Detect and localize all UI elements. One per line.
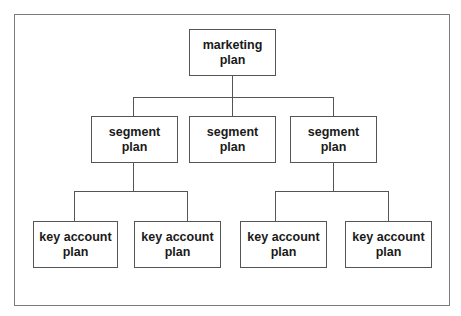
connector (133, 162, 134, 191)
key-account-plan-node: key account plan (134, 221, 221, 268)
node-label-line2: plan (122, 140, 148, 155)
connector (388, 191, 389, 221)
segment-plan-node: segment plan (91, 116, 178, 163)
node-label-line1: key account (352, 230, 424, 245)
connector (333, 97, 334, 116)
node-label-line2: plan (376, 245, 402, 260)
connector (333, 162, 334, 191)
connector (133, 97, 334, 98)
connector (133, 97, 134, 116)
key-account-plan-node: key account plan (240, 221, 327, 268)
marketing-plan-node: marketing plan (189, 29, 276, 76)
node-label-line1: segment (308, 125, 359, 140)
node-label-line2: plan (220, 140, 246, 155)
segment-plan-node: segment plan (290, 116, 377, 163)
node-label-line1: segment (109, 125, 160, 140)
node-label-line2: plan (271, 245, 297, 260)
node-label-line2: plan (321, 140, 347, 155)
connector (232, 75, 233, 116)
node-label-line1: key account (39, 230, 111, 245)
node-label-line2: plan (63, 245, 89, 260)
node-label-line1: marketing (203, 38, 263, 53)
connector (74, 191, 188, 192)
segment-plan-node: segment plan (189, 116, 276, 163)
key-account-plan-node: key account plan (345, 221, 432, 268)
connector (74, 191, 75, 221)
node-label-line1: key account (141, 230, 213, 245)
node-label-line2: plan (165, 245, 191, 260)
connector (275, 191, 276, 221)
key-account-plan-node: key account plan (33, 221, 118, 268)
connector (275, 191, 389, 192)
node-label-line2: plan (220, 53, 246, 68)
node-label-line1: key account (247, 230, 319, 245)
connector (187, 191, 188, 221)
node-label-line1: segment (207, 125, 258, 140)
